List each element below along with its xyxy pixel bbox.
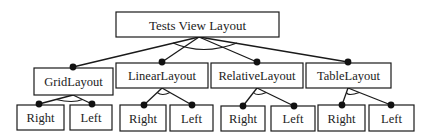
mandatory-dot-icon — [89, 101, 96, 108]
alternative-group-arc-icon — [346, 93, 359, 95]
leaf-node-table-right: Right — [318, 105, 365, 131]
layout-node-grid: GridLayout — [34, 68, 113, 95]
leaf-label: Right — [328, 112, 356, 126]
mandatory-dot-icon — [254, 59, 261, 66]
layout-node-linear: LinearLayout — [116, 63, 208, 88]
mandatory-dot-icon — [189, 102, 196, 109]
edge-layout-1-to-child-1 — [162, 88, 192, 105]
leaf-label: Right — [129, 112, 157, 126]
layout-label: LinearLayout — [128, 69, 197, 83]
layout-node-relative: RelativeLayout — [211, 63, 303, 88]
edge-layout-3-to-child-1 — [348, 88, 391, 105]
alternative-group-arc-icon — [157, 93, 170, 95]
mandatory-dot-icon — [388, 102, 395, 109]
mandatory-dot-icon — [291, 103, 298, 110]
layout-label: GridLayout — [44, 75, 103, 89]
edge-layout-1-to-child-0 — [144, 88, 162, 105]
layout-label: RelativeLayout — [218, 69, 296, 83]
leaf-label: Right — [229, 112, 257, 126]
leaf-node-grid-right: Right — [17, 105, 64, 130]
mandatory-dot-icon — [36, 101, 43, 108]
mandatory-dot-icon — [141, 102, 148, 109]
layout-node-table: TableLayout — [306, 63, 391, 88]
mandatory-dot-icon — [159, 59, 166, 66]
leaf-label: Left — [283, 112, 304, 126]
mandatory-dot-icon — [70, 64, 77, 71]
mandatory-dot-icon — [339, 102, 346, 109]
leaf-node-relative-right: Right — [221, 106, 265, 131]
leaf-node-grid-left: Left — [70, 105, 112, 130]
leaf-node-linear-left: Left — [170, 105, 213, 131]
root-label: Tests View Layout — [149, 18, 246, 33]
leaf-label: Left — [81, 111, 102, 125]
layout-label: TableLayout — [317, 69, 381, 83]
leaf-label: Left — [381, 112, 402, 126]
nodes-layer: Tests View Layout GridLayout Right Left … — [17, 12, 414, 131]
leaf-node-table-left: Left — [369, 105, 414, 131]
leaf-label: Right — [27, 111, 55, 125]
alternative-group-arc-icon — [56, 100, 83, 102]
edge-layout-2-to-child-1 — [257, 88, 294, 106]
leaf-node-relative-left: Left — [271, 106, 315, 131]
edge-layout-2-to-child-0 — [243, 88, 257, 106]
alternative-group-arc-icon — [254, 93, 267, 95]
feature-diagram: Tests View Layout GridLayout Right Left … — [0, 0, 429, 139]
mandatory-dot-icon — [240, 103, 247, 110]
leaf-label: Left — [181, 112, 202, 126]
root-node: Tests View Layout — [116, 12, 279, 37]
mandatory-dot-icon — [345, 59, 352, 66]
leaf-node-linear-right: Right — [120, 105, 166, 131]
edge-root-to-layout-3 — [199, 37, 348, 62]
